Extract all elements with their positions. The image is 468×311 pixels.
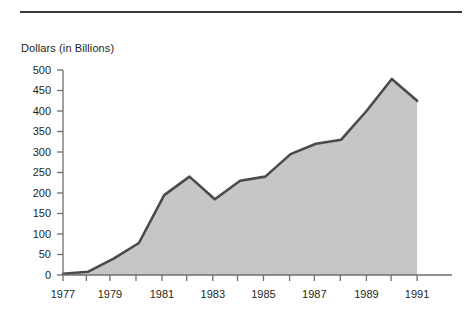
area-fill xyxy=(63,79,417,275)
x-tick-label-1985: 1985 xyxy=(241,289,287,300)
x-tick-label-1981: 1981 xyxy=(139,289,185,300)
y-tick-label-200: 200 xyxy=(11,188,51,199)
area-chart-svg xyxy=(0,0,468,311)
y-tick-label-400: 400 xyxy=(11,106,51,117)
y-tick-label-50: 50 xyxy=(11,249,51,260)
y-tick-label-0: 0 xyxy=(11,270,51,281)
y-tick-label-500: 500 xyxy=(11,65,51,76)
plot-area: 500 450 400 350 300 250 200 150 100 50 0… xyxy=(0,0,468,311)
y-tick-label-450: 450 xyxy=(11,85,51,96)
x-tick-label-1979: 1979 xyxy=(87,289,133,300)
x-tick-label-1987: 1987 xyxy=(291,289,337,300)
chart-figure: Dollars (in Billions) xyxy=(0,0,468,311)
x-tick-label-1977: 1977 xyxy=(40,289,86,300)
y-tick-marks xyxy=(57,70,63,275)
y-tick-label-100: 100 xyxy=(11,229,51,240)
x-tick-label-1989: 1989 xyxy=(343,289,389,300)
y-tick-label-150: 150 xyxy=(11,208,51,219)
x-tick-marks xyxy=(63,275,417,281)
x-tick-label-1983: 1983 xyxy=(190,289,236,300)
y-tick-label-350: 350 xyxy=(11,126,51,137)
x-tick-label-1991: 1991 xyxy=(394,289,440,300)
y-tick-label-250: 250 xyxy=(11,167,51,178)
y-tick-label-300: 300 xyxy=(11,147,51,158)
